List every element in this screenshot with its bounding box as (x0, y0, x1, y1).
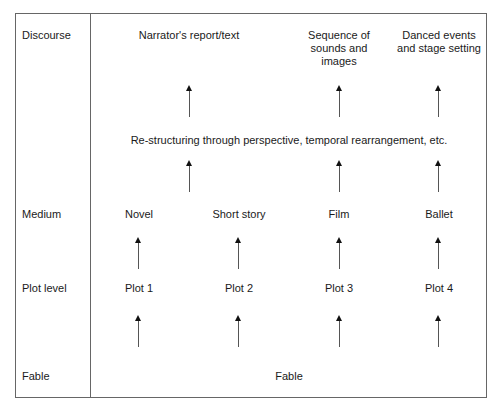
arrow-up-icon (438, 90, 439, 117)
restructuring-text: Re-structuring through perspective, temp… (131, 134, 448, 147)
arrow-up-icon (339, 90, 340, 117)
arrow-up-icon (238, 242, 239, 269)
plot-3: Plot 3 (325, 282, 353, 295)
level-label-discourse: Discourse (22, 29, 71, 42)
discourse-narrator-text: Narrator's report/text (139, 29, 240, 42)
arrow-up-icon (189, 165, 190, 192)
arrow-up-icon (339, 165, 340, 192)
arrow-up-icon (138, 320, 139, 347)
arrow-up-icon (138, 242, 139, 269)
plot-2: Plot 2 (225, 282, 253, 295)
level-label-medium: Medium (22, 208, 61, 221)
diagram-frame (15, 13, 487, 398)
medium-short-story: Short story (212, 208, 265, 221)
column-divider (90, 13, 91, 398)
level-label-fable: Fable (22, 370, 50, 383)
arrow-up-icon (339, 320, 340, 347)
plot-4: Plot 4 (425, 282, 453, 295)
arrow-up-icon (438, 165, 439, 192)
arrow-up-icon (339, 242, 340, 269)
medium-film: Film (329, 208, 350, 221)
arrow-up-icon (238, 320, 239, 347)
arrow-up-icon (438, 320, 439, 347)
medium-novel: Novel (125, 208, 153, 221)
discourse-ballet-text: Danced events and stage setting (397, 29, 481, 55)
arrow-up-icon (189, 90, 190, 117)
discourse-film-text: Sequence of sounds and images (308, 29, 370, 68)
plot-1: Plot 1 (125, 282, 153, 295)
arrow-up-icon (438, 242, 439, 269)
fable-text: Fable (275, 370, 303, 383)
medium-ballet: Ballet (425, 208, 453, 221)
level-label-plot: Plot level (22, 282, 67, 295)
